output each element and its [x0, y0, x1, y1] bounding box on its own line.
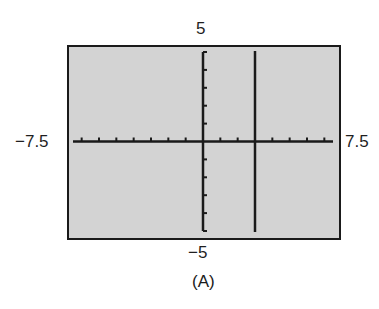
axes — [73, 52, 333, 231]
figure-caption: (A) — [192, 273, 215, 290]
xmin-label: −7.5 — [15, 133, 49, 150]
xmax-label: 7.5 — [345, 133, 369, 150]
ymin-label: −5 — [188, 244, 207, 261]
ymax-label: 5 — [196, 20, 205, 37]
plot-area — [0, 0, 379, 309]
